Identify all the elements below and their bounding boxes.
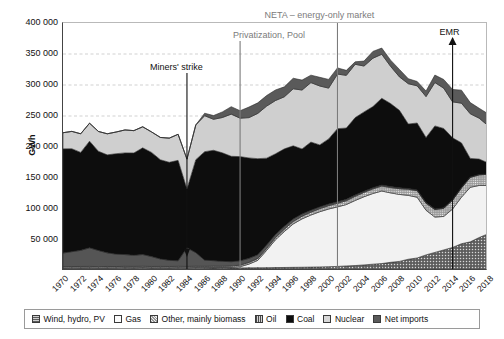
- annotation-label: Privatization, Pool: [233, 30, 305, 40]
- legend-swatch-coal: [286, 315, 294, 323]
- legend-swatch-other-biomass: [150, 315, 158, 323]
- legend-item[interactable]: Coal: [286, 315, 315, 324]
- legend-item[interactable]: Gas: [114, 315, 141, 324]
- legend-item[interactable]: Oil: [255, 315, 277, 324]
- y-axis-tick-label: 300 000: [6, 80, 58, 89]
- legend-item[interactable]: Nuclear: [323, 315, 364, 324]
- legend-item-label: Gas: [125, 315, 141, 324]
- legend-item-label: Coal: [297, 315, 314, 324]
- stacked-area-svg: [63, 23, 487, 270]
- chart-legend: Wind, hydro, PVGasOther, mainly biomassO…: [24, 309, 480, 329]
- y-axis-tick-label: 250 000: [6, 111, 58, 120]
- x-axis-tick-labels: 1970197219741976197819801982198419861988…: [0, 272, 504, 312]
- legend-swatch-wind-hydro-pv: [32, 315, 40, 323]
- plot-area: [62, 22, 487, 270]
- legend-item-label: Other, mainly biomass: [162, 315, 246, 324]
- y-axis-tick-label: 400 000: [6, 18, 58, 27]
- x-axis-tick-label: 2018: [472, 274, 495, 297]
- annotation-arrowhead: [449, 37, 457, 45]
- y-axis-tick-label: 150 000: [6, 173, 58, 182]
- y-axis-tick-label: 200 000: [6, 142, 58, 151]
- y-axis-tick-label: 350 000: [6, 49, 58, 58]
- legend-item-label: Nuclear: [335, 315, 364, 324]
- legend-swatch-gas: [114, 315, 122, 323]
- x-axis-tick-label: 1970: [47, 274, 70, 297]
- chart-root: GWh 400 000350 000300 000250 000200 0001…: [0, 0, 504, 339]
- legend-swatch-oil: [255, 315, 263, 323]
- legend-item-label: Net imports: [385, 315, 428, 324]
- legend-item-label: Oil: [266, 315, 276, 324]
- legend-swatch-net-imports: [373, 315, 381, 323]
- legend-item[interactable]: Net imports: [373, 315, 428, 324]
- legend-item[interactable]: Wind, hydro, PV: [32, 315, 105, 324]
- annotation-label: EMR: [440, 27, 460, 37]
- y-axis-tick-label: 100 000: [6, 204, 58, 213]
- legend-item[interactable]: Other, mainly biomass: [150, 315, 246, 324]
- annotation-label: Miners' strike: [150, 62, 203, 72]
- y-axis-tick-label: 50 000: [6, 235, 58, 244]
- legend-item-label: Wind, hydro, PV: [44, 315, 105, 324]
- annotation-label: NETA – energy-only market: [264, 10, 374, 20]
- legend-swatch-nuclear: [323, 315, 331, 323]
